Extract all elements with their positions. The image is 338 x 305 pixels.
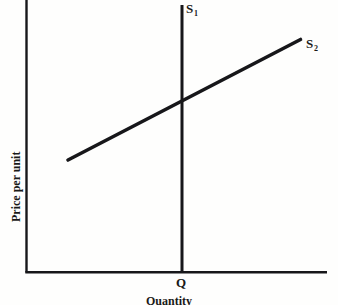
supply-curve-s1-label: S1: [186, 2, 198, 15]
supply-curve-s1-subscript: 1: [194, 9, 198, 18]
x-axis-title: Quantity: [0, 295, 338, 305]
supply-curve-figure: S1 S2 Q Price per unit Quantity: [0, 0, 338, 305]
supply-curve-s2-label: S2: [306, 37, 318, 50]
y-axis-title: Price per unit: [10, 102, 22, 222]
supply-curve-s2-subscript: 2: [314, 44, 318, 53]
supply-curve-s1-name: S: [186, 1, 193, 16]
supply-curve-s2-name: S: [306, 36, 313, 51]
supply-curve-s2-line: [68, 40, 301, 161]
plot-area: [0, 0, 338, 305]
x-axis-tick-label-q: Q: [176, 276, 186, 289]
